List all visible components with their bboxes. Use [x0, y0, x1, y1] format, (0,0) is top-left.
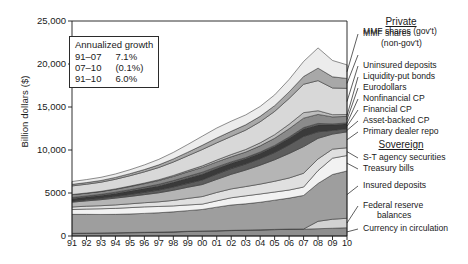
legend-leader-line — [347, 34, 358, 72]
legend-item[interactable]: Nonfinancial CP — [363, 94, 425, 104]
legend-item[interactable]: S-T agency securities — [363, 153, 445, 163]
annotation-value: (0.1%) — [115, 62, 143, 73]
legend-item-label: Liquidity-put bonds — [363, 71, 435, 81]
chart-legend: PrivateMMF shares(non-gov't)MMF shares (… — [358, 0, 468, 264]
legend-item-label: Financial CP — [363, 104, 412, 114]
legend-item-label: Currency in circulation — [363, 223, 448, 233]
annotation-title: Annualized growth — [75, 39, 153, 51]
x-tick-label: 10 — [334, 238, 360, 248]
legend-item-label: S-T agency securities — [363, 152, 445, 162]
legend-group-heading: Sovereign — [358, 139, 444, 150]
chart-figure: Billion dollars ($) 0500010,00015,00020,… — [0, 0, 468, 264]
legend-leader-line — [347, 99, 358, 123]
legend-item[interactable]: MMF shares (gov't) — [363, 27, 437, 37]
legend-item[interactable]: Asset-backed CP — [363, 116, 429, 126]
legend-item-label: Insured deposits — [363, 180, 426, 190]
legend-item-label: MMF shares (gov't) — [363, 26, 437, 36]
legend-leader-line — [347, 88, 358, 120]
annotation-period: 07–10 — [75, 62, 115, 73]
legend-leader-line — [347, 206, 358, 223]
legend-leader-line — [347, 132, 358, 140]
legend-leader-line — [347, 186, 358, 195]
legend-item-label: Uninsured deposits — [363, 60, 437, 70]
legend-leader-line — [347, 152, 358, 158]
legend-item[interactable]: Eurodollars — [363, 83, 406, 93]
legend-item[interactable]: Currency in circulation — [363, 224, 448, 234]
annotation-period: 91–10 — [75, 73, 115, 84]
legend-item-label-line2: balances — [363, 211, 423, 221]
legend-leader-line — [347, 229, 358, 232]
legend-item[interactable]: Insured deposits — [363, 181, 426, 191]
legend-item[interactable]: Primary dealer repo — [363, 127, 438, 137]
legend-item[interactable]: Financial CP — [363, 105, 412, 115]
legend-item-label: Eurodollars — [363, 82, 406, 92]
annotation-table: 91–077.1%07–10(0.1%)91–106.0% — [75, 51, 143, 84]
annotation-row: 91–106.0% — [75, 73, 143, 84]
legend-leader-line — [347, 163, 358, 169]
legend-item-label: Primary dealer repo — [363, 126, 438, 136]
legend-item-label-line2: (non-gov't) — [363, 39, 422, 49]
annotation-row: 07–10(0.1%) — [75, 62, 143, 73]
legend-item-label: Nonfinancial CP — [363, 93, 425, 103]
legend-item[interactable]: Treasury bills — [363, 164, 414, 174]
legend-item-label: Treasury bills — [363, 163, 414, 173]
legend-item-label: Federal reserve — [363, 200, 423, 210]
legend-item[interactable]: Liquidity-put bonds — [363, 72, 435, 82]
legend-leader-line — [347, 121, 358, 130]
annotation-value: 6.0% — [115, 73, 143, 84]
annualized-growth-box: Annualized growth 91–077.1%07–10(0.1%)91… — [69, 36, 159, 88]
legend-leader-line — [347, 55, 358, 83]
annotation-row: 91–077.1% — [75, 51, 143, 62]
legend-item[interactable]: Uninsured deposits — [363, 61, 437, 71]
legend-leader-line — [347, 110, 358, 126]
annotation-value: 7.1% — [115, 51, 143, 62]
legend-item[interactable]: Federal reservebalances — [363, 201, 423, 220]
legend-item-label: Asset-backed CP — [363, 115, 429, 125]
annotation-period: 91–07 — [75, 51, 115, 62]
